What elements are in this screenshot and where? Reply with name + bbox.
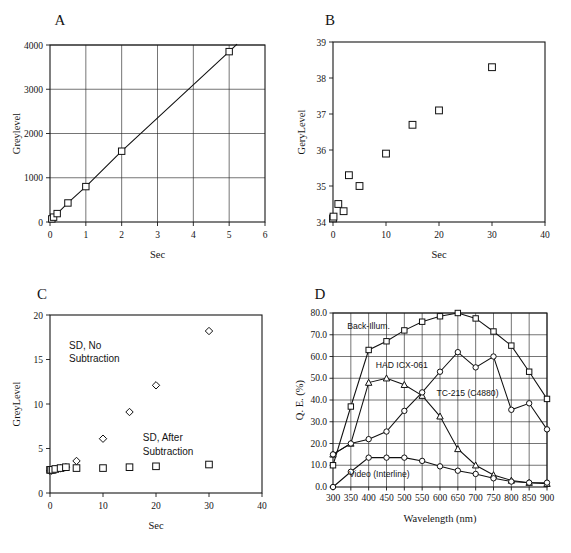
panel-a-dataline — [52, 52, 229, 219]
data-point — [206, 461, 213, 468]
panel-a-yticks: 01000200030004000 — [24, 41, 50, 228]
panel-c-label: C — [37, 286, 47, 302]
ytick-label: 0 — [38, 489, 43, 499]
ytick-label: 34 — [317, 218, 327, 228]
panel-b-xlabel: Sec — [431, 249, 447, 260]
xtick-label: 20 — [434, 230, 444, 240]
data-point — [126, 464, 133, 471]
data-point — [356, 183, 363, 190]
ytick-label: 70.0 — [310, 330, 327, 340]
data-point — [526, 369, 531, 374]
xtick-label: 400 — [362, 493, 377, 503]
ytick-label: 10 — [34, 400, 44, 410]
xtick-label: 850 — [522, 493, 537, 503]
data-point — [63, 464, 70, 471]
ytick-label: 10.0 — [310, 460, 327, 470]
ytick-label: 2000 — [24, 129, 43, 139]
xtick-label: 0 — [331, 230, 336, 240]
ytick-label: 30.0 — [310, 417, 327, 427]
data-point — [152, 382, 159, 389]
panel-a-label: A — [55, 12, 66, 28]
xtick-label: 10 — [381, 230, 391, 240]
data-point — [509, 479, 514, 484]
xtick-label: 3 — [155, 230, 160, 240]
xtick-label: 450 — [379, 493, 394, 503]
panel-b-xticks: 010203040 — [331, 222, 550, 240]
ytick-label: 15 — [34, 355, 44, 365]
data-point — [226, 48, 232, 54]
data-point — [544, 427, 549, 432]
data-point — [473, 365, 478, 370]
data-point — [83, 183, 89, 189]
data-point — [384, 455, 389, 460]
panel-b-yticks: 343536373839 — [317, 38, 334, 228]
panel-c-ylabel: GreyLevel — [11, 381, 22, 426]
ytick-label: 37 — [317, 110, 327, 120]
data-point — [509, 343, 514, 348]
ytick-label: 39 — [317, 38, 327, 48]
panel-d-label: D — [315, 286, 326, 302]
data-point — [526, 480, 531, 485]
panel-b-ylabel: GeryLevel — [296, 109, 307, 154]
xtick-label: 4 — [191, 230, 196, 240]
xtick-label: 500 — [397, 493, 412, 503]
curve-label-tc-215: TC-215 (C4880) — [436, 388, 498, 398]
panel-a-ylabel: Greylevel — [11, 113, 22, 154]
data-point — [335, 201, 342, 208]
curve-label-had-icx-061: HAD ICX-061 — [376, 360, 428, 370]
data-point — [330, 452, 335, 457]
data-point — [366, 347, 371, 352]
data-point — [437, 464, 442, 469]
panel-a-chart: A 012345601000200030004000SecGreylevel — [0, 0, 290, 278]
annotation-no-subtraction-line1: SD, No — [69, 340, 102, 351]
data-point — [455, 468, 460, 473]
xtick-label: 0 — [48, 501, 53, 511]
data-point — [402, 408, 407, 413]
ytick-label: 80.0 — [310, 308, 327, 318]
ytick-label: 38 — [317, 74, 327, 84]
panel-b-frame — [333, 42, 545, 222]
panel-c-series-after-subtraction — [47, 461, 213, 473]
panel-b-label: B — [325, 12, 335, 28]
data-point — [99, 435, 106, 442]
xtick-label: 20 — [151, 501, 161, 511]
data-point — [419, 458, 424, 463]
data-point — [419, 390, 424, 395]
xtick-label: 900 — [540, 493, 555, 503]
data-point — [491, 354, 496, 359]
data-point — [100, 465, 107, 472]
xtick-label: 5 — [227, 230, 232, 240]
curve-label-back-illum: Back-Illum. — [347, 321, 390, 331]
ytick-label: 36 — [317, 146, 327, 156]
xtick-label: 650 — [451, 493, 466, 503]
panel-b: B 010203040343536373839SecGeryLevel — [285, 0, 571, 278]
data-point — [473, 316, 478, 321]
panel-d: D 30035040045050055060065070075080085090… — [285, 275, 571, 553]
panel-c-chart: C 01020304005101520SD, NoSubtractionSD, … — [0, 275, 290, 553]
panel-c: C 01020304005101520SD, NoSubtractionSD, … — [0, 275, 290, 553]
data-point — [73, 457, 80, 464]
ytick-label: 60.0 — [310, 352, 327, 362]
data-point — [346, 172, 353, 179]
xtick-label: 800 — [504, 493, 519, 503]
xtick-label: 40 — [540, 230, 550, 240]
ytick-label: 35 — [317, 182, 327, 192]
data-point — [509, 407, 514, 412]
xtick-label: 550 — [415, 493, 430, 503]
panel-d-xticks: 300350400450500550600650700750800850900 — [326, 487, 555, 503]
data-point — [455, 310, 460, 315]
ytick-label: 20.0 — [310, 439, 327, 449]
data-point — [384, 429, 389, 434]
ytick-label: 1000 — [24, 173, 43, 183]
data-point — [526, 401, 531, 406]
xtick-label: 0 — [48, 230, 53, 240]
data-point — [366, 455, 371, 460]
data-point — [489, 64, 496, 71]
xtick-label: 30 — [487, 230, 497, 240]
data-point — [126, 408, 133, 415]
xtick-label: 750 — [486, 493, 501, 503]
data-point — [419, 319, 424, 324]
xtick-label: 300 — [326, 493, 341, 503]
panel-d-yticks: 0.010.020.030.040.050.060.070.080.0 — [310, 308, 333, 492]
ytick-label: 0.0 — [315, 482, 327, 492]
